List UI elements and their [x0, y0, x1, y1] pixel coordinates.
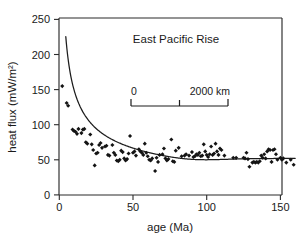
data-point	[153, 169, 157, 173]
data-point	[60, 84, 64, 88]
scale-bar-rule	[131, 99, 228, 106]
data-point	[209, 144, 213, 148]
data-point	[174, 149, 178, 153]
data-point	[247, 165, 251, 169]
data-point	[215, 149, 219, 153]
data-point	[110, 143, 114, 147]
data-point	[90, 142, 94, 146]
data-point	[127, 151, 131, 155]
data-point	[203, 149, 207, 153]
y-tick-label-200: 200	[32, 49, 50, 61]
data-point	[156, 160, 160, 164]
data-point	[134, 154, 138, 158]
data-point	[93, 163, 97, 167]
y-tick-label-0: 0	[44, 189, 50, 201]
data-point	[244, 151, 248, 155]
data-point	[177, 146, 181, 150]
y-tick-label-50: 50	[38, 154, 50, 166]
data-point	[146, 154, 150, 158]
data-point	[88, 132, 92, 136]
y-axis-title: heat flux (mW/m²)	[6, 61, 18, 153]
data-point	[128, 134, 132, 138]
data-point	[213, 142, 217, 146]
data-point	[222, 154, 226, 158]
figure-title: East Pacific Rise	[133, 33, 219, 45]
data-point	[143, 142, 147, 146]
scale-bar-right-label: 2000 km	[190, 85, 231, 97]
data-point	[216, 153, 220, 157]
x-axis-title: age (Ma)	[147, 221, 193, 233]
data-point	[274, 152, 278, 156]
data-point	[91, 148, 95, 152]
plot-area: 250 200 150 100 50 0 0 50 100 150 age (M…	[0, 0, 300, 243]
data-point	[284, 161, 288, 165]
x-tick-label-100: 100	[198, 201, 216, 213]
data-point	[155, 156, 159, 160]
y-axis-ticks: 250 200 150 100 50 0	[32, 13, 59, 201]
y-tick-label-150: 150	[32, 84, 50, 96]
data-point	[157, 153, 161, 157]
scale-bar-left-label: 0	[131, 85, 137, 97]
data-point	[76, 127, 80, 131]
y-tick-label-100: 100	[32, 119, 50, 131]
data-point	[169, 137, 173, 141]
x-tick-label-50: 50	[127, 201, 139, 213]
data-point	[79, 131, 83, 135]
data-point	[264, 156, 268, 160]
heat-flux-figure: 250 200 150 100 50 0 0 50 100 150 age (M…	[0, 0, 300, 243]
x-tick-label-0: 0	[56, 201, 62, 213]
x-axis-ticks: 0 50 100 150	[56, 195, 289, 213]
data-point	[190, 150, 194, 154]
y-tick-label-250: 250	[32, 13, 50, 25]
data-point	[202, 142, 206, 146]
data-point	[246, 157, 250, 161]
data-point	[292, 163, 296, 167]
data-point	[162, 147, 166, 151]
scale-bar: 0 2000 km	[131, 85, 230, 106]
x-tick-label-150: 150	[271, 201, 289, 213]
data-point	[270, 160, 274, 164]
